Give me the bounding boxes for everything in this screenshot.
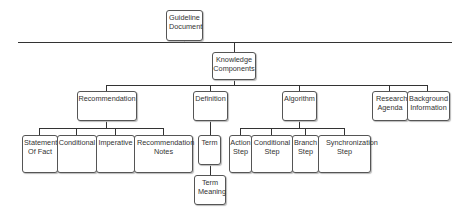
- tree-diagram: Guideline Document Knowledge Components …: [0, 0, 470, 210]
- connector-line: [240, 128, 241, 135]
- node-guideline-document: Guideline Document: [166, 10, 203, 41]
- node-branch-step: Branch Step: [292, 135, 319, 173]
- connector-line: [106, 85, 428, 86]
- connector-line: [240, 128, 344, 129]
- node-term: Term: [198, 135, 221, 165]
- connector-line: [305, 128, 306, 135]
- connector-line: [271, 128, 272, 135]
- connector-line: [210, 120, 211, 135]
- node-definition: Definition: [193, 91, 228, 121]
- connector-line: [76, 128, 77, 135]
- node-synchronization-step: Synchronization Step: [318, 135, 371, 173]
- connector-line: [39, 128, 163, 129]
- connector-line: [163, 128, 164, 135]
- connector-line: [39, 128, 40, 135]
- node-knowledge-components: Knowledge Components: [212, 52, 256, 80]
- connector-line: [18, 42, 452, 43]
- node-recommendation-notes: Recommendation Notes: [134, 135, 193, 173]
- node-term-meaning: Term Meaning: [194, 175, 226, 205]
- node-algorithm: Algorithm: [282, 91, 317, 121]
- node-research-agenda: Research Agenda: [372, 91, 408, 121]
- node-imperative: Imperative: [96, 135, 135, 173]
- connector-line: [234, 42, 235, 52]
- connector-line: [115, 128, 116, 135]
- node-statement-of-fact: Statement Of Fact: [22, 135, 58, 173]
- node-recommendation: Recommendation: [77, 91, 137, 121]
- node-conditional-step: Conditional Step: [251, 135, 293, 173]
- node-conditional: Conditional: [57, 135, 97, 173]
- connector-line: [106, 120, 107, 128]
- connector-line: [299, 120, 300, 128]
- node-background-information: Background Information: [407, 91, 450, 121]
- connector-line: [344, 128, 345, 135]
- node-action-step: Action Step: [229, 135, 252, 173]
- connector-line: [210, 165, 211, 175]
